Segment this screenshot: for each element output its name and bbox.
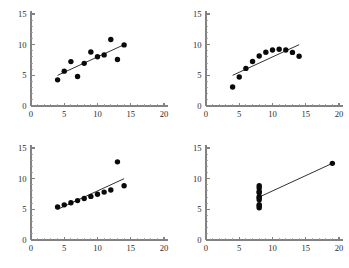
data-point [283, 47, 288, 52]
x-tick-label: 0 [29, 243, 33, 253]
x-tick-label: 5 [237, 243, 241, 253]
x-tick-label: 10 [268, 243, 277, 253]
data-point [62, 202, 67, 207]
y-tick-label: 10 [193, 174, 202, 184]
data-point [68, 200, 73, 205]
x-tick-label: 0 [29, 109, 33, 119]
data-point [108, 37, 113, 42]
x-tick-label: 20 [160, 109, 169, 119]
y-tick-label: 5 [197, 204, 201, 214]
panel-4-canvas: 05101520051015 [175, 134, 349, 268]
data-point [257, 203, 262, 208]
regression-line [259, 163, 332, 197]
data-point [75, 74, 80, 79]
data-point [101, 52, 106, 57]
data-point [263, 50, 268, 55]
data-point [290, 50, 295, 55]
x-tick-label: 15 [126, 109, 135, 119]
x-tick-label: 0 [204, 109, 208, 119]
panel-2-canvas: 05101520051015 [175, 0, 349, 134]
x-tick-label: 10 [93, 109, 102, 119]
scatter-panel-2: 05101520051015 [175, 0, 349, 134]
y-tick-label: 15 [18, 9, 27, 19]
data-point [237, 74, 242, 79]
data-point [296, 54, 301, 59]
scatter-panel-4: 05101520051015 [175, 134, 349, 268]
x-tick-label: 5 [237, 109, 241, 119]
data-point [108, 187, 113, 192]
scatter-panel-1: 05101520051015 [0, 0, 174, 134]
data-point [121, 183, 126, 188]
data-point [62, 68, 67, 73]
y-tick-label: 15 [18, 143, 27, 153]
data-point [75, 198, 80, 203]
data-point [115, 159, 120, 164]
data-point [257, 195, 262, 200]
x-tick-label: 5 [62, 109, 66, 119]
y-tick-label: 10 [18, 174, 27, 184]
y-tick-label: 10 [18, 40, 27, 50]
data-point [95, 192, 100, 197]
data-point [270, 47, 275, 52]
data-point [276, 47, 281, 52]
data-point [330, 161, 335, 166]
anscombe-quartet-figure: 05101520051015 05101520051015 0510152005… [0, 0, 349, 268]
y-tick-label: 0 [22, 101, 26, 111]
x-tick-label: 5 [62, 243, 66, 253]
data-point [55, 77, 60, 82]
x-tick-label: 15 [126, 243, 135, 253]
x-tick-label: 0 [204, 243, 208, 253]
x-tick-label: 20 [335, 109, 344, 119]
x-tick-label: 15 [301, 243, 310, 253]
data-point [88, 194, 93, 199]
data-point [82, 61, 87, 66]
y-tick-label: 5 [22, 204, 26, 214]
x-tick-label: 15 [301, 109, 310, 119]
data-point [250, 59, 255, 64]
data-point [95, 54, 100, 59]
data-point [88, 49, 93, 54]
y-tick-label: 0 [22, 235, 26, 245]
data-point [115, 57, 120, 62]
x-tick-label: 20 [160, 243, 169, 253]
scatter-panel-3: 05101520051015 [0, 134, 174, 268]
y-tick-label: 15 [193, 143, 202, 153]
data-point [257, 189, 262, 194]
x-tick-label: 20 [335, 243, 344, 253]
y-tick-label: 10 [193, 40, 202, 50]
data-point [243, 66, 248, 71]
regression-line [233, 45, 300, 76]
y-tick-label: 0 [197, 235, 201, 245]
data-point [101, 189, 106, 194]
y-tick-label: 5 [22, 70, 26, 80]
y-tick-label: 15 [193, 9, 202, 19]
data-point [68, 59, 73, 64]
y-tick-label: 0 [197, 101, 201, 111]
y-tick-label: 5 [197, 70, 201, 80]
data-point [121, 42, 126, 47]
x-tick-label: 10 [268, 109, 277, 119]
x-tick-label: 10 [93, 243, 102, 253]
data-point [82, 196, 87, 201]
panel-3-canvas: 05101520051015 [0, 134, 174, 268]
data-point [55, 204, 60, 209]
data-point [230, 84, 235, 89]
data-point [257, 53, 262, 58]
panel-1-canvas: 05101520051015 [0, 0, 174, 134]
